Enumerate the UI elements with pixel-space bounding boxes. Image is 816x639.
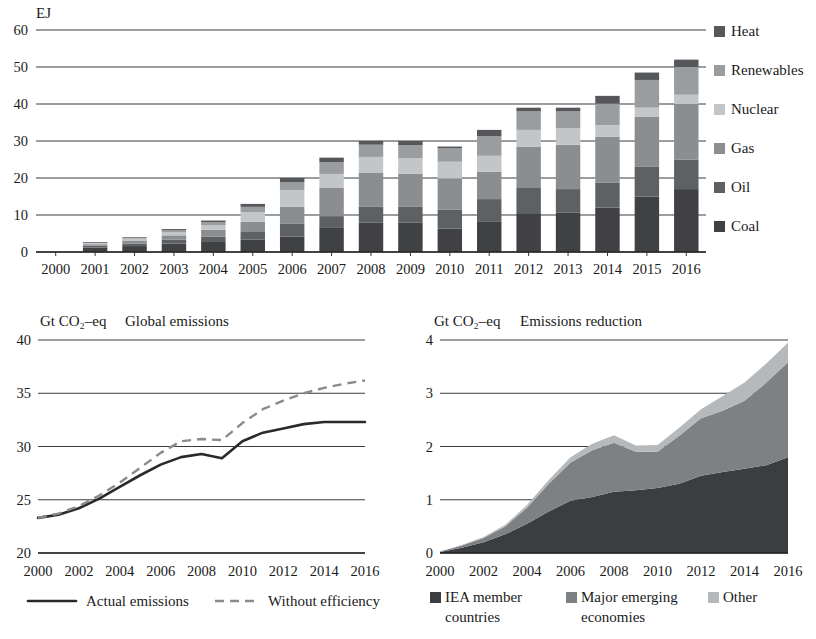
bar-segment — [122, 246, 146, 252]
y-axis-tick-label: 2 — [426, 439, 433, 455]
bar-segment — [162, 229, 186, 230]
legend-label: Heat — [731, 23, 760, 39]
bar-segment — [398, 141, 422, 145]
bar-segment — [438, 229, 462, 252]
bar-segment — [635, 80, 659, 108]
global-emissions-line-chart: Gt CO₂–eqGlobal emissions202530354020002… — [0, 300, 408, 639]
bar-segment — [359, 141, 383, 145]
bar-segment — [477, 221, 501, 252]
bar-segment — [516, 130, 540, 147]
x-axis-tick-label: 2012 — [687, 563, 716, 579]
bottom-left-chart-svg: Gt CO₂–eqGlobal emissions202530354020002… — [0, 300, 408, 639]
legend-label: Other — [723, 589, 757, 605]
x-axis-tick-label: 2009 — [396, 261, 425, 277]
bar-segment — [556, 213, 580, 252]
legend-swatch — [714, 221, 725, 232]
x-axis-tick-label: 2004 — [199, 261, 229, 277]
bar-segment — [674, 95, 698, 104]
x-axis-tick-label: 2000 — [41, 261, 70, 277]
bar-segment — [162, 230, 186, 232]
bar-segment — [635, 117, 659, 167]
legend-label: IEA member — [445, 589, 522, 605]
bar-segment — [280, 182, 304, 190]
legend-swatch — [708, 592, 719, 603]
energy-efficiency-investment-bar-chart: EJ01020304050602000200120022003200420052… — [0, 0, 816, 300]
unit-label: Gt CO₂–eq — [40, 313, 107, 329]
legend-label: Major emerging — [581, 589, 678, 605]
y-axis-tick-label: 3 — [426, 385, 433, 401]
without-efficiency-line — [38, 380, 365, 517]
actual-emissions-line — [38, 422, 365, 518]
x-axis-tick-label: 2006 — [556, 563, 585, 579]
bar-segment — [635, 167, 659, 197]
y-axis-tick-label: 1 — [426, 492, 433, 508]
x-axis-tick-label: 2013 — [554, 261, 583, 277]
legend-label: Without efficiency — [268, 593, 380, 609]
legend-label-line2: countries — [445, 609, 500, 625]
legend-label-line2: economies — [581, 609, 645, 625]
bar-segment — [280, 224, 304, 237]
bar-segment — [359, 157, 383, 173]
x-axis-tick-label: 2011 — [475, 261, 503, 277]
bar-segment — [122, 241, 146, 244]
bar-segment — [556, 128, 580, 145]
bar-segment — [359, 207, 383, 223]
bar-segment — [201, 236, 225, 242]
bar-segment — [319, 188, 343, 216]
bar-segment — [359, 222, 383, 252]
bar-segment — [280, 207, 304, 224]
bar-segment — [280, 190, 304, 207]
x-axis-tick-label: 2016 — [672, 261, 701, 277]
bar-segment — [319, 228, 343, 252]
bar-segment — [635, 197, 659, 253]
bar-segment — [477, 199, 501, 221]
bar-segment — [162, 235, 186, 239]
bar-segment — [280, 236, 304, 252]
bar-segment — [516, 187, 540, 213]
x-axis-tick-label: 2006 — [146, 563, 175, 579]
y-axis-tick-label: 40 — [17, 332, 32, 348]
x-axis-tick-label: 2015 — [632, 261, 661, 277]
legend-label: Nuclear — [731, 101, 778, 117]
x-axis-tick-label: 2008 — [187, 563, 216, 579]
bar-segment — [674, 104, 698, 160]
x-axis-tick-label: 2014 — [593, 261, 623, 277]
bar-segment — [122, 239, 146, 241]
x-axis-tick-label: 2000 — [426, 563, 455, 579]
bar-segment — [241, 212, 265, 222]
bar-segment — [241, 239, 265, 252]
x-axis-tick-label: 2012 — [269, 563, 298, 579]
legend-label: Gas — [731, 140, 754, 156]
bar-segment — [162, 243, 186, 252]
x-axis-tick-label: 2002 — [64, 563, 93, 579]
bar-segment — [477, 136, 501, 156]
x-axis-tick-label: 2010 — [435, 261, 464, 277]
emissions-reduction-area-chart: Gt CO₂–eqEmissions reduction012342000200… — [408, 300, 816, 639]
bar-segment — [122, 237, 146, 238]
x-axis-tick-label: 2004 — [105, 563, 135, 579]
x-axis-tick-label: 2014 — [310, 563, 340, 579]
legend-swatch — [714, 104, 725, 115]
bar-segment — [398, 222, 422, 252]
legend-label: Actual emissions — [86, 593, 189, 609]
bar-segment — [674, 189, 698, 252]
bar-segment — [83, 246, 107, 248]
bar-segment — [319, 216, 343, 228]
bar-segment — [83, 242, 107, 243]
bar-segment — [241, 204, 265, 207]
legend-swatch — [430, 592, 441, 603]
bar-segment — [398, 174, 422, 207]
y-axis-tick-label: 4 — [426, 332, 434, 348]
bar-segment — [477, 172, 501, 199]
x-axis-tick-label: 2003 — [159, 261, 188, 277]
y-axis-tick-label: 35 — [17, 385, 32, 401]
x-axis-tick-label: 2010 — [228, 563, 257, 579]
bar-segment — [201, 242, 225, 252]
x-axis-tick-label: 2014 — [730, 563, 760, 579]
bar-segment — [595, 208, 619, 252]
x-axis-tick-label: 2008 — [357, 261, 386, 277]
bar-segment — [516, 108, 540, 112]
chart-title: Emissions reduction — [520, 313, 643, 329]
unit-label: Gt CO₂–eq — [434, 313, 501, 329]
legend-swatch — [714, 26, 725, 37]
